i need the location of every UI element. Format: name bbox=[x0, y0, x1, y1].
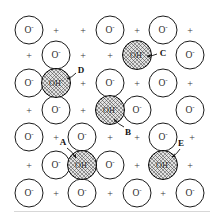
cation-site: + bbox=[185, 79, 195, 89]
anion-charge-superscript: - bbox=[31, 186, 33, 194]
cation-site: + bbox=[185, 161, 195, 171]
anion-site: O- bbox=[149, 123, 178, 152]
anion-charge-superscript: - bbox=[84, 130, 86, 138]
hydroxyl-charge-superscript: - bbox=[87, 158, 89, 165]
hydroxyl-defect-site: OH- bbox=[41, 68, 71, 98]
anion-label: O- bbox=[158, 133, 167, 143]
anion-label: O- bbox=[105, 26, 114, 36]
anion-charge-superscript: - bbox=[192, 48, 194, 56]
anion-site: O- bbox=[149, 16, 178, 45]
cation-site: + bbox=[132, 133, 142, 143]
anion-label: O- bbox=[158, 26, 167, 36]
lattice-grid: O-++O-+O-++O-++OH-O-O-OH-+O-+O-++O-+OH-O… bbox=[0, 0, 220, 222]
lattice-figure: O-++O-+O-++O-++OH-O-O-OH-+O-+O-++O-+OH-O… bbox=[0, 0, 220, 222]
cation-site: + bbox=[105, 189, 115, 199]
cation-site: + bbox=[187, 133, 197, 143]
anion-site: O- bbox=[15, 123, 44, 152]
cation-site: + bbox=[105, 133, 115, 143]
anion-label: O- bbox=[24, 79, 33, 89]
hydroxyl-defect-site: OH- bbox=[67, 150, 97, 180]
anion-site: O- bbox=[15, 16, 44, 45]
anion-site: O- bbox=[123, 179, 152, 208]
hydroxyl-defect-site: OH- bbox=[148, 150, 178, 180]
callout-label-e: E bbox=[178, 138, 184, 148]
callout-label-a: A bbox=[60, 137, 67, 147]
anion-site: O- bbox=[176, 96, 205, 125]
anion-charge-superscript: - bbox=[58, 158, 60, 166]
anion-label: O- bbox=[24, 26, 33, 36]
cation-site: + bbox=[185, 26, 195, 36]
anion-site: O- bbox=[68, 179, 97, 208]
anion-site: O- bbox=[96, 69, 125, 98]
hydroxyl-defect-site: OH- bbox=[122, 40, 152, 70]
anion-charge-superscript: - bbox=[165, 23, 167, 31]
anion-charge-superscript: - bbox=[165, 76, 167, 84]
anion-label: O- bbox=[24, 189, 33, 199]
hydroxyl-label: OH- bbox=[130, 51, 144, 59]
anion-charge-superscript: - bbox=[165, 130, 167, 138]
anion-charge-superscript: - bbox=[31, 23, 33, 31]
hydroxyl-label: OH- bbox=[103, 106, 117, 114]
cation-site: + bbox=[24, 51, 34, 61]
anion-site: O- bbox=[15, 69, 44, 98]
anion-site: O- bbox=[176, 179, 205, 208]
cation-site: + bbox=[51, 189, 61, 199]
hydroxyl-charge-superscript: - bbox=[168, 158, 170, 165]
cation-site: + bbox=[24, 106, 34, 116]
anion-site: O- bbox=[68, 123, 97, 152]
cation-site: + bbox=[78, 26, 88, 36]
callout-label-b: B bbox=[125, 127, 131, 137]
anion-label: O- bbox=[132, 189, 141, 199]
cation-site: + bbox=[132, 26, 142, 36]
anion-charge-superscript: - bbox=[31, 76, 33, 84]
hydroxyl-charge-superscript: - bbox=[61, 76, 63, 83]
anion-label: O- bbox=[24, 133, 33, 143]
anion-charge-superscript: - bbox=[112, 76, 114, 84]
hydroxyl-label: OH- bbox=[156, 161, 170, 169]
anion-charge-superscript: - bbox=[58, 48, 60, 56]
anion-label: O- bbox=[77, 189, 86, 199]
callout-label-d: D bbox=[78, 65, 85, 75]
cation-site: + bbox=[24, 161, 34, 171]
anion-charge-superscript: - bbox=[31, 130, 33, 138]
anion-label: O- bbox=[132, 106, 141, 116]
callout-label-c: C bbox=[160, 48, 167, 58]
anion-charge-superscript: - bbox=[58, 103, 60, 111]
cation-site: + bbox=[132, 79, 142, 89]
hydroxyl-label: OH- bbox=[75, 161, 89, 169]
anion-charge-superscript: - bbox=[112, 158, 114, 166]
anion-charge-superscript: - bbox=[139, 103, 141, 111]
cation-site: + bbox=[78, 106, 88, 116]
cation-site: + bbox=[78, 51, 88, 61]
anion-label: O- bbox=[51, 161, 60, 171]
anion-charge-superscript: - bbox=[192, 103, 194, 111]
cation-site: + bbox=[158, 189, 168, 199]
anion-label: O- bbox=[105, 161, 114, 171]
anion-label: O- bbox=[158, 79, 167, 89]
anion-label: O- bbox=[77, 133, 86, 143]
anion-site: O- bbox=[176, 41, 205, 70]
anion-site: O- bbox=[96, 151, 125, 180]
cation-site: + bbox=[105, 51, 115, 61]
anion-charge-superscript: - bbox=[192, 186, 194, 194]
anion-site: O- bbox=[15, 179, 44, 208]
anion-site: O- bbox=[42, 96, 71, 125]
anion-label: O- bbox=[51, 51, 60, 61]
anion-label: O- bbox=[185, 51, 194, 61]
anion-label: O- bbox=[185, 106, 194, 116]
cation-site: + bbox=[78, 79, 88, 89]
anion-site: O- bbox=[149, 69, 178, 98]
hydroxyl-charge-superscript: - bbox=[115, 103, 117, 110]
anion-label: O- bbox=[105, 79, 114, 89]
anion-label: O- bbox=[51, 106, 60, 116]
hydroxyl-label: OH- bbox=[49, 79, 63, 87]
cation-site: + bbox=[51, 26, 61, 36]
anion-charge-superscript: - bbox=[139, 186, 141, 194]
hydroxyl-charge-superscript: - bbox=[142, 48, 144, 55]
anion-site: O- bbox=[96, 16, 125, 45]
anion-site: O- bbox=[42, 41, 71, 70]
anion-charge-superscript: - bbox=[112, 23, 114, 31]
anion-label: O- bbox=[185, 189, 194, 199]
anion-charge-superscript: - bbox=[84, 186, 86, 194]
cation-site: + bbox=[132, 161, 142, 171]
